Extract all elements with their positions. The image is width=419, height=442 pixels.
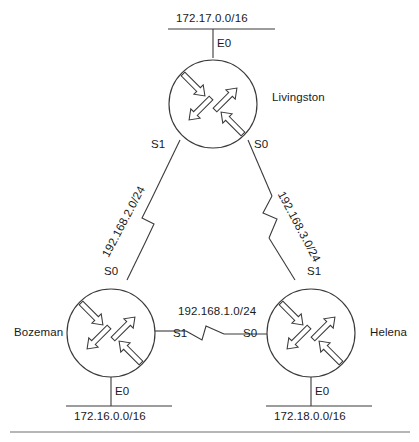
router-bozeman-name: Bozeman bbox=[14, 326, 63, 338]
livingston-lan-network-label: 172.17.0.0/16 bbox=[176, 12, 248, 24]
network-topology-diagram bbox=[0, 0, 419, 442]
router-bozeman-icon bbox=[67, 289, 155, 377]
helena-e0-label: E0 bbox=[315, 385, 329, 397]
diagram-page: 172.17.0.0/16 E0 Livingston S1 S0 192.16… bbox=[0, 0, 419, 442]
helena-lan-network-label: 172.18.0.0/16 bbox=[274, 410, 346, 422]
serial-network-middle-label: 192.168.1.0/24 bbox=[178, 305, 256, 317]
bozeman-e0-label: E0 bbox=[115, 385, 129, 397]
helena-s0-label: S0 bbox=[243, 327, 257, 339]
bozeman-lan-network-label: 172.16.0.0/16 bbox=[74, 410, 146, 422]
helena-s1-label: S1 bbox=[307, 265, 321, 277]
bozeman-s0-label: S0 bbox=[104, 265, 118, 277]
livingston-s0-label: S0 bbox=[254, 138, 268, 150]
bozeman-s1-label: S1 bbox=[173, 327, 187, 339]
livingston-s1-label: S1 bbox=[151, 138, 165, 150]
router-livingston-icon bbox=[169, 60, 257, 148]
router-helena-name: Helena bbox=[370, 326, 407, 338]
livingston-e0-label: E0 bbox=[217, 37, 231, 49]
router-helena-icon bbox=[267, 289, 355, 377]
router-livingston-name: Livingston bbox=[272, 91, 325, 103]
